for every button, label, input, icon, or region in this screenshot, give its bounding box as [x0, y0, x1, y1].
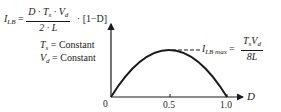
max-lhs-sub: LB max — [205, 48, 227, 56]
ilb-curve-plot — [0, 0, 281, 112]
max-fraction: TsVd 8L — [241, 35, 263, 63]
max-denominator: 8L — [241, 51, 263, 63]
x-axis-label: D — [247, 90, 255, 102]
ilb-curve — [111, 50, 227, 97]
max-numerator: TsVd — [241, 35, 263, 51]
tick-label-1-0: 1.0 — [220, 100, 232, 110]
max-eq: = — [229, 44, 234, 54]
ilb-max-label: ILB max = — [202, 44, 235, 56]
max-num-sub-2: d — [257, 40, 261, 48]
origin-label: 0 — [103, 99, 108, 109]
tick-label-0-5: 0.5 — [163, 100, 175, 110]
